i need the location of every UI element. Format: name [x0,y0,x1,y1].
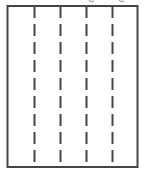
clipped-caption-fragment [89,0,124,2]
outer-frame [8,6,138,167]
text-descender-fragment [89,0,94,2]
text-descender-fragment [119,0,124,2]
column-separators [35,6,113,167]
diagram-canvas [0,0,146,173]
